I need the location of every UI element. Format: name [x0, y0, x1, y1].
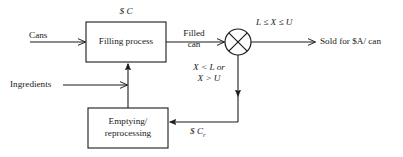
reprocessing-cost-label-subscript: r — [203, 131, 206, 138]
filling-cost-label: $ C — [86, 6, 166, 17]
reject-condition-label-line1: X < L or — [186, 62, 232, 73]
reject-condition-label-line2: X > U — [186, 73, 232, 84]
sold-output-label: Sold for $A/ can — [320, 36, 381, 47]
process-flow-diagram: $ C Cans Ingredients Filling process Emp… — [0, 0, 403, 157]
accept-condition-label: L ≤ X ≤ U — [256, 17, 292, 28]
emptying-reprocessing-label-line1: Emptying/ — [88, 116, 168, 128]
ingredients-input-label: Ingredients — [10, 79, 51, 90]
emptying-reprocessing-label-line2: reprocessing — [88, 128, 168, 140]
reprocessing-cost-label-main: $ C — [190, 126, 203, 136]
filled-can-label: Filled can — [172, 28, 216, 50]
reprocessing-cost-label: $ Cr — [190, 126, 206, 140]
emptying-reprocessing-label: Emptying/ reprocessing — [88, 116, 168, 139]
cans-input-label: Cans — [29, 30, 47, 41]
filled-can-label-line2: can — [172, 39, 216, 50]
reject-condition-label: X < L or X > U — [186, 62, 232, 84]
filling-process-label: Filling process — [86, 36, 166, 48]
filled-can-label-line1: Filled — [172, 28, 216, 39]
